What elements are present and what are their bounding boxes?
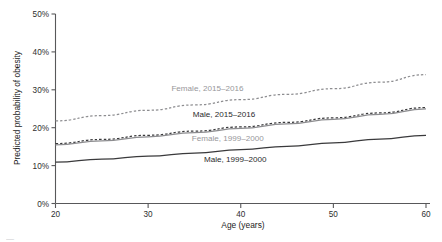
series-label-female-1999-2000: Female, 1999–2000 — [192, 134, 264, 143]
x-tick-label: 50 — [329, 210, 339, 219]
series-label-female-2015-2016: Female, 2015–2016 — [171, 84, 243, 93]
y-tick-label: 50% — [33, 10, 49, 19]
line-chart: 0%10%20%30%40%50% Predicted probability … — [0, 0, 442, 242]
y-tick-group: 0%10%20%30%40%50% — [33, 10, 56, 209]
y-axis: 0%10%20%30%40%50% Predicted probability … — [12, 10, 56, 209]
y-tick-label: 0% — [37, 200, 49, 209]
x-axis: 2030405060 Age (years) — [51, 204, 431, 231]
x-axis-title: Age (years) — [221, 220, 264, 230]
x-tick-label: 30 — [144, 210, 154, 219]
y-tick-label: 10% — [33, 162, 49, 171]
x-tick-label: 60 — [421, 210, 431, 219]
y-tick-label: 20% — [33, 124, 49, 133]
x-tick-label: 20 — [51, 210, 61, 219]
inline-label-group: Female, 2015–2016Male, 2015–2016Female, … — [171, 84, 267, 164]
series-label-male-2015-2016: Male, 2015–2016 — [193, 110, 256, 119]
y-tick-label: 30% — [33, 86, 49, 95]
x-tick-group: 2030405060 — [51, 204, 431, 220]
x-tick-label: 40 — [236, 210, 246, 219]
figure-container: 0%10%20%30%40%50% Predicted probability … — [0, 0, 442, 242]
series-label-male-1999-2000: Male, 1999–2000 — [204, 155, 267, 164]
figure-caption: — — [6, 233, 236, 242]
y-axis-title: Predicted probability of obesity — [12, 50, 22, 165]
y-tick-label: 40% — [33, 48, 49, 57]
